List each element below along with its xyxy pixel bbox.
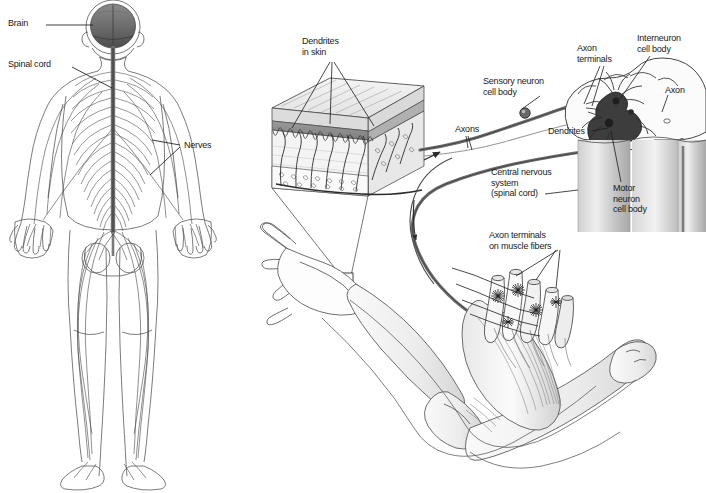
leader-sensory-soma [522,96,540,109]
label-interneuron-cell-body: Interneuron cell body [637,33,681,54]
reflex-arc-illustration [260,56,706,468]
central-canal [664,119,670,123]
label-dendrites-in-skin: Dendrites in skin [302,36,339,57]
label-brain: Brain [8,18,28,29]
label-axon: Axon [665,85,685,96]
label-axon-terminals-on-muscle: Axon terminals on muscle fibers [489,230,551,251]
label-axon-terminals: Axon terminals [577,43,612,64]
brain-shape [91,4,136,48]
interneuron-soma [613,98,620,105]
label-spinal-cord: Spinal cord [8,59,51,70]
descending-loop [410,158,452,284]
label-axons: Axons [455,124,479,135]
skin-block [272,78,424,196]
label-sensory-neuron-cell-body: Sensory neuron cell body [483,76,544,97]
label-dendrites: Dendrites [548,126,585,137]
motor-neuron-soma [605,119,613,127]
diagram-artwork [0,0,706,493]
label-motor-neuron-cell-body: Motor neuron cell body [613,183,647,215]
nervous-system-figure: Brain Spinal cord Nerves Dendrites in sk… [0,0,706,493]
label-central-nervous-system: Central nervous system (spinal cord) [491,167,552,199]
label-nerves: Nerves [184,140,211,151]
arm-illustration [260,223,656,468]
sensory-neuron-soma [520,108,530,118]
whole-body-illustration [10,0,217,490]
